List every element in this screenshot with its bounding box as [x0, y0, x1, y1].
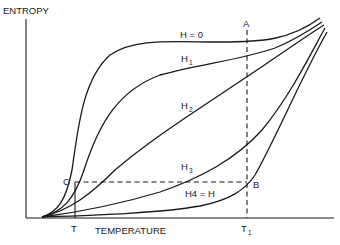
tick-t: T — [71, 223, 77, 234]
svg-text:1: 1 — [189, 59, 193, 66]
tick-t1: T 1 — [241, 223, 252, 236]
curve-label-h1: H 1 — [181, 53, 193, 66]
point-b-label: B — [253, 179, 259, 190]
entropy-temperature-diagram: ENTROPY TEMPERATURE T T 1 A B C H = 0 H … — [0, 0, 340, 245]
curve-h0 — [42, 18, 320, 217]
x-axis-label: TEMPERATURE — [95, 225, 166, 236]
curve-label-h0: H = 0 — [180, 29, 203, 40]
curve-label-h3: H 3 — [181, 161, 193, 174]
y-axis-label: ENTROPY — [3, 5, 50, 16]
svg-text:H: H — [181, 100, 188, 111]
svg-text:T: T — [241, 223, 247, 234]
svg-text:H: H — [181, 53, 188, 64]
curve-label-h2: H 2 — [181, 100, 193, 113]
svg-text:3: 3 — [189, 167, 193, 174]
svg-text:H: H — [181, 161, 188, 172]
svg-text:1: 1 — [248, 229, 252, 236]
curve-label-h4: H4 = H — [185, 188, 215, 199]
point-a-label: A — [243, 18, 250, 29]
point-c-label: C — [63, 176, 70, 187]
svg-text:2: 2 — [189, 106, 193, 113]
